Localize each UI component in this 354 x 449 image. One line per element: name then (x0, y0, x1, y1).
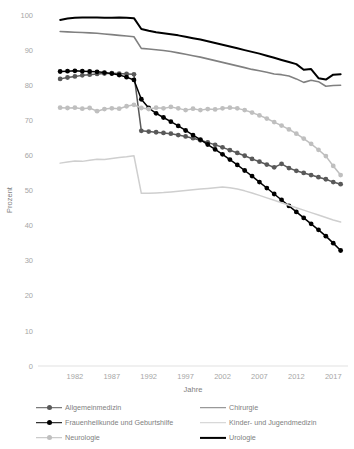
data-point-marker (301, 215, 306, 220)
data-point-marker (132, 102, 137, 107)
data-point-marker (213, 147, 218, 152)
data-point-marker (198, 108, 203, 113)
data-point-marker (109, 106, 114, 111)
legend-item[interactable]: Chirurgie (200, 400, 317, 415)
data-point-marker (235, 151, 240, 156)
legend-item[interactable]: Allgemeinmedizin (36, 400, 173, 415)
y-tick-label: 40 (25, 221, 33, 230)
data-point-marker (228, 157, 233, 162)
legend-swatch (36, 433, 62, 443)
data-point-marker (316, 175, 321, 180)
data-point-marker (250, 110, 255, 115)
y-tick-label: 30 (25, 256, 33, 265)
data-point-marker (80, 106, 85, 111)
data-point-marker (264, 116, 269, 121)
data-point-marker (264, 186, 269, 191)
data-point-marker (323, 154, 328, 159)
data-point-marker (73, 68, 78, 73)
legend-marker-icon (47, 405, 52, 410)
legend-swatch (200, 433, 226, 443)
data-point-marker (58, 76, 63, 81)
data-point-marker (73, 74, 78, 79)
legend-item[interactable]: Neurologie (36, 430, 173, 445)
data-point-marker (102, 107, 107, 112)
data-point-marker (95, 69, 100, 74)
data-point-marker (168, 131, 173, 136)
data-point-marker (176, 133, 181, 138)
chart-legend: AllgemeinmedizinFrauenheilkunde und Gebu… (0, 400, 354, 449)
data-point-marker (183, 108, 188, 113)
data-point-marker (58, 105, 63, 110)
data-point-marker (309, 221, 314, 226)
data-point-marker (257, 159, 262, 164)
data-point-marker (279, 123, 284, 128)
legend-item[interactable]: Kinder- und Jugendmedizin (200, 415, 317, 430)
data-point-marker (323, 234, 328, 239)
series-urologie (60, 17, 340, 79)
data-point-marker (154, 105, 159, 110)
data-point-marker (183, 128, 188, 133)
data-point-marker (161, 131, 166, 136)
data-point-marker (272, 165, 277, 170)
data-point-marker (287, 166, 292, 171)
data-point-marker (272, 120, 277, 125)
data-point-marker (117, 73, 122, 78)
series-allgemeinmedizin (58, 71, 343, 187)
series-line (60, 71, 340, 251)
data-point-marker (309, 141, 314, 146)
data-point-marker (228, 105, 233, 110)
y-tick-label: 50 (25, 186, 33, 195)
data-point-marker (139, 128, 144, 133)
data-point-marker (132, 72, 137, 77)
data-point-marker (205, 142, 210, 147)
y-tick-label: 0 (29, 362, 33, 371)
legend-label: Allgemeinmedizin (65, 404, 121, 411)
data-point-marker (154, 130, 159, 135)
data-point-marker (80, 69, 85, 74)
x-tick-label: 2017 (325, 372, 342, 381)
legend-column-left: AllgemeinmedizinFrauenheilkunde und Gebu… (36, 400, 173, 445)
data-point-marker (191, 133, 196, 138)
data-point-marker (154, 111, 159, 116)
data-point-marker (73, 105, 78, 110)
data-point-marker (250, 157, 255, 162)
data-point-marker (338, 182, 343, 187)
data-point-marker (279, 161, 284, 166)
series-group (58, 17, 343, 252)
y-tick-label: 80 (25, 81, 33, 90)
data-point-marker (132, 78, 137, 83)
data-point-marker (228, 148, 233, 153)
series-frauenheilkunde-und-geburtshilfe (58, 68, 343, 253)
x-tick-label: 2002 (214, 372, 231, 381)
data-point-marker (146, 129, 151, 134)
legend-label: Chirurgie (229, 404, 258, 411)
x-axis-tick-labels: 19821987199219972002200720122017 (67, 372, 342, 381)
data-point-marker (161, 106, 166, 111)
data-point-marker (250, 174, 255, 179)
legend-swatch (36, 418, 62, 428)
legend-item[interactable]: Frauenheilkunde und Geburtshilfe (36, 415, 173, 430)
data-point-marker (338, 173, 343, 178)
data-point-marker (242, 108, 247, 113)
data-point-marker (220, 152, 225, 157)
legend-item[interactable]: Urologie (200, 430, 317, 445)
x-tick-label: 1997 (177, 372, 194, 381)
legend-line-icon (200, 422, 226, 424)
data-point-marker (257, 180, 262, 185)
legend-marker-icon (47, 435, 52, 440)
y-tick-label: 20 (25, 291, 33, 300)
data-point-marker (168, 119, 173, 124)
data-point-marker (309, 173, 314, 178)
data-point-marker (213, 107, 218, 112)
data-point-marker (331, 180, 336, 185)
data-point-marker (316, 227, 321, 232)
data-point-marker (168, 105, 173, 110)
legend-marker-icon (47, 420, 52, 425)
data-point-marker (331, 164, 336, 169)
legend-swatch (200, 403, 226, 413)
data-point-marker (102, 70, 107, 75)
data-point-marker (139, 106, 144, 111)
chart-container: 0102030405060708090100 19821987199219972… (0, 0, 354, 449)
data-point-marker (65, 106, 70, 111)
data-point-marker (191, 106, 196, 111)
